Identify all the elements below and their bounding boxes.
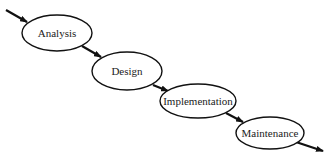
edge-implementation-to-maintenance — [226, 113, 243, 122]
edge-analysis-to-design — [82, 46, 101, 57]
node-analysis: Analysis — [22, 15, 92, 51]
node-maintenance: Maintenance — [236, 117, 304, 149]
node-design: Design — [92, 52, 162, 90]
node-label-analysis: Analysis — [38, 27, 77, 39]
node-implementation: Implementation — [160, 84, 236, 118]
edge-maintenance-to-end — [296, 142, 323, 151]
waterfall-diagram: Analysis Design Implementation Maintenan… — [0, 0, 331, 165]
node-label-design: Design — [111, 65, 143, 77]
node-label-maintenance: Maintenance — [242, 127, 299, 139]
node-label-implementation: Implementation — [163, 95, 233, 107]
edge-design-to-implementation — [153, 85, 168, 91]
edge-start-to-analysis — [6, 10, 27, 22]
